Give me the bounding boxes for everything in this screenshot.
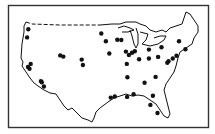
city-marker xyxy=(42,84,46,88)
city-marker xyxy=(166,59,170,63)
city-marker xyxy=(61,54,65,58)
city-marker xyxy=(148,103,152,107)
city-marker xyxy=(125,62,129,66)
city-marker xyxy=(125,75,129,79)
city-marker xyxy=(119,38,123,42)
city-marker xyxy=(137,57,141,61)
city-marker xyxy=(133,49,137,53)
city-marker xyxy=(147,56,151,60)
city-marker xyxy=(81,63,85,67)
city-marker xyxy=(80,57,84,61)
city-marker xyxy=(131,92,135,96)
city-marker xyxy=(115,38,119,42)
city-marker xyxy=(125,95,129,99)
city-marker xyxy=(183,47,187,51)
city-marker xyxy=(171,56,175,60)
us-map xyxy=(0,0,215,134)
city-marker xyxy=(113,94,117,98)
city-marker xyxy=(99,31,103,35)
city-marker xyxy=(174,54,178,58)
city-marker xyxy=(29,62,33,66)
city-marker xyxy=(26,27,30,31)
city-marker xyxy=(40,80,44,84)
city-marker xyxy=(155,111,159,115)
city-marker xyxy=(104,39,108,43)
city-marker xyxy=(142,81,146,85)
city-marker xyxy=(156,55,160,59)
city-marker xyxy=(177,39,181,43)
city-marker xyxy=(124,49,128,53)
city-marker xyxy=(151,94,155,98)
city-marker xyxy=(25,35,29,39)
city-marker xyxy=(153,75,157,79)
city-marker xyxy=(159,45,163,49)
city-marker xyxy=(109,95,113,99)
city-marker xyxy=(107,51,111,55)
city-marker xyxy=(27,67,31,71)
city-marker xyxy=(147,47,151,51)
